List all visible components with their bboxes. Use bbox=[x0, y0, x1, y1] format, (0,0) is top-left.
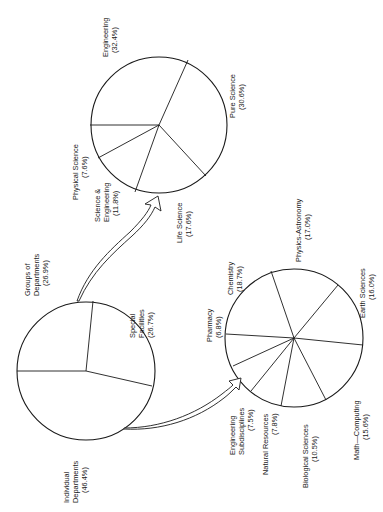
label-physics-astronomy: Physics-Astronomy (17.0%) bbox=[294, 197, 312, 262]
pie-slice-divider bbox=[86, 301, 93, 371]
pie-slice-divider bbox=[226, 334, 294, 338]
label-engineering-subdisciplines: Engineering Subdisciplines (7.5%) bbox=[228, 406, 255, 455]
label-pure-science: Pure Science (30.6%) bbox=[228, 72, 246, 118]
label-natural-resources: Natural Resources (7.8%) bbox=[261, 412, 279, 475]
pie-slice-divider bbox=[294, 338, 363, 345]
pies bbox=[17, 57, 363, 440]
label-math-computing: Math—Computing (15.6%) bbox=[352, 398, 370, 460]
pie-individual-departments-breakdown bbox=[225, 269, 363, 407]
pie-slice-divider bbox=[86, 371, 152, 386]
pie-slice-divider bbox=[271, 271, 294, 338]
pie-slice-divider bbox=[159, 60, 188, 125]
pie-slice-divider bbox=[159, 125, 206, 176]
pie-chart-figure: Groups of Departments (26.9%) Special Fa… bbox=[0, 0, 383, 512]
pie-slice-divider bbox=[233, 338, 294, 366]
label-groups-of-departments: Groups of Departments (26.9%) bbox=[23, 252, 50, 296]
pie-slice-divider bbox=[294, 285, 338, 338]
label-biological-sciences: Biological Sciences (10.5%) bbox=[301, 422, 319, 488]
pie-slice-divider bbox=[98, 125, 159, 158]
label-earth-sciences: Earth Sciences (16.0%) bbox=[358, 266, 376, 318]
pie-groups-of-departments-breakdown bbox=[90, 57, 227, 193]
label-physical-science: Physical Science (7.6%) bbox=[71, 142, 89, 200]
label-engineering: Engineering (32.4%) bbox=[101, 15, 119, 57]
pie-slice-divider bbox=[251, 338, 294, 391]
label-life-science: Life Science (17.6%) bbox=[175, 201, 193, 243]
label-pharmacy: Pharmacy (6.8%) bbox=[205, 307, 223, 342]
arrow-to-individual-pie bbox=[124, 378, 241, 429]
label-chemistry: Chemistry (18.7%) bbox=[226, 260, 244, 295]
pie-slice-divider bbox=[294, 338, 326, 400]
label-science-engineering: Science & Engineering (11.8%) bbox=[93, 180, 120, 222]
label-special-facilities: Special Facilities (26.7%) bbox=[128, 307, 155, 338]
pie-slice-divider bbox=[281, 338, 294, 406]
label-individual-departments: Individual Departments (46.4%) bbox=[62, 459, 89, 503]
pie-slice-divider bbox=[135, 125, 159, 192]
chart-canvas: Groups of Departments (26.9%) Special Fa… bbox=[0, 0, 383, 512]
